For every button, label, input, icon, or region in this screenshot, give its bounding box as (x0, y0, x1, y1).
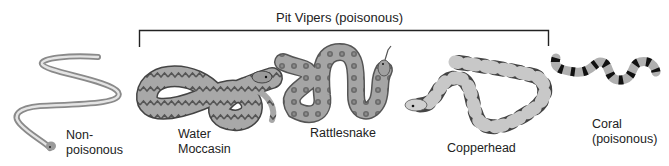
water-moccasin-snake-icon (147, 71, 273, 120)
copperhead-snake-icon (405, 62, 545, 127)
label-water-moccasin: Water Moccasin (178, 127, 231, 157)
label-non-poisonous: Non- poisonous (66, 128, 123, 158)
label-coral: Coral (poisonous) (592, 117, 657, 147)
coral-snake-icon (555, 58, 656, 80)
label-rattlesnake: Rattlesnake (310, 126, 376, 141)
label-copperhead: Copperhead (447, 141, 516, 156)
rattlesnake-snake-icon (283, 46, 391, 114)
